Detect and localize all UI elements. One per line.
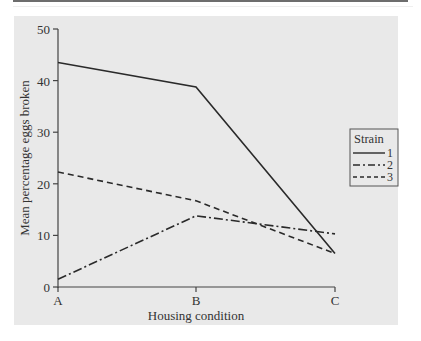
series-strain-1 (58, 63, 335, 254)
x-tick-a: A (53, 293, 63, 308)
y-tick-10: 10 (37, 228, 50, 243)
x-axis (58, 287, 335, 292)
x-tick-b: B (192, 293, 201, 308)
y-tick-20: 20 (37, 177, 50, 192)
y-tick-30: 30 (37, 125, 50, 140)
y-tick-0: 0 (44, 280, 51, 295)
y-axis (53, 29, 58, 288)
series-strain-2 (58, 216, 335, 279)
legend-title: Strain (354, 132, 385, 146)
legend-label-3: 3 (387, 170, 393, 184)
x-axis-title: Housing condition (148, 308, 245, 323)
line-chart: 50 40 30 20 10 0 A B C Housing condition… (0, 0, 421, 341)
y-tick-40: 40 (37, 74, 50, 89)
x-tick-c: C (331, 293, 340, 308)
y-tick-50: 50 (37, 22, 50, 37)
y-axis-title: Mean percentage eggs broken (17, 80, 32, 236)
legend: Strain 1 2 3 (350, 129, 398, 186)
series-strain-3 (58, 172, 335, 254)
